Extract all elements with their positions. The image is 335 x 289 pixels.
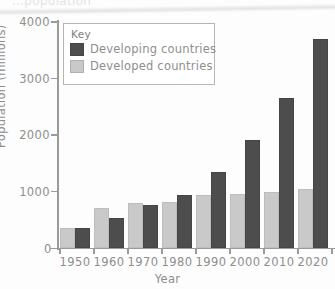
y-axis-tick (51, 134, 58, 136)
legend-title: Key (71, 28, 208, 40)
bar-developed-2010 (264, 192, 279, 249)
bar-developing-1980 (177, 195, 192, 248)
legend-item-developed: Developed countries (70, 59, 208, 73)
legend-label: Developing countries (90, 42, 216, 56)
y-axis-tick (51, 78, 58, 80)
legend-swatch-icon-developing (70, 43, 84, 56)
legend-swatch-icon-developed (70, 60, 84, 73)
y-axis-tick-label: 2000 (16, 128, 50, 142)
bar-developing-2020 (313, 39, 328, 248)
x-axis-tick-label: 2010 (264, 255, 295, 269)
y-axis-tick-label: 3000 (16, 72, 50, 86)
y-axis-tick-label: 1000 (16, 185, 50, 199)
x-axis-tick-label: 1980 (162, 255, 193, 269)
x-axis-tick (229, 248, 231, 254)
y-tick-label-zero: 0 (44, 242, 51, 256)
chart-screenshot: ...population Population (millions) Year… (0, 0, 335, 289)
bar-developed-1990 (196, 195, 211, 248)
legend-label: Developed countries (90, 59, 213, 73)
bar-developed-1970 (128, 203, 143, 248)
x-axis-tick (263, 248, 265, 254)
x-axis-tick (331, 248, 333, 254)
bar-developing-1970 (143, 205, 158, 248)
x-axis-title: Year (0, 272, 335, 286)
x-axis-tick (127, 248, 129, 254)
x-axis-tick (161, 248, 163, 254)
x-axis-tick (195, 248, 197, 254)
bar-developed-1980 (162, 202, 177, 248)
bar-developing-2000 (245, 140, 260, 248)
bar-developed-1950 (60, 228, 75, 248)
x-axis-tick-label: 2020 (298, 255, 329, 269)
x-axis-tick (59, 248, 61, 254)
legend-rows: Developing countriesDeveloped countries (70, 42, 208, 73)
y-axis-title: Population (millions) (0, 24, 8, 148)
bar-developing-1960 (109, 218, 124, 248)
x-axis-tick-label: 1950 (60, 255, 91, 269)
legend-box: Key Developing countriesDeveloped countr… (63, 23, 215, 85)
y-axis-tick-label: 4000 (16, 15, 50, 29)
y-axis-tick (51, 191, 58, 193)
x-axis-tick (93, 248, 95, 254)
x-axis-tick-label: 1960 (94, 255, 125, 269)
x-axis-tick-label: 2000 (230, 255, 261, 269)
bar-developed-1960 (94, 208, 109, 248)
x-axis-tick (297, 248, 299, 254)
y-axis-tick (51, 21, 58, 23)
legend-item-developing: Developing countries (70, 42, 208, 56)
bar-developing-2010 (279, 98, 294, 248)
bar-developing-1950 (75, 228, 90, 248)
bar-developed-2020 (298, 189, 313, 248)
bar-developed-2000 (230, 194, 245, 248)
x-axis-tick-label: 1990 (196, 255, 227, 269)
bar-developing-1990 (211, 172, 226, 248)
x-axis-tick-label: 1970 (128, 255, 159, 269)
